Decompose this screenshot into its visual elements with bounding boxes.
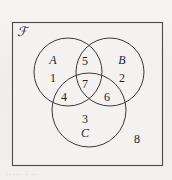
region-a-only-number: 1: [46, 72, 60, 84]
region-b-and-c-number: 6: [100, 91, 114, 103]
region-outside-number: 8: [130, 133, 144, 145]
set-label-c: C: [78, 127, 92, 139]
region-a-and-c-number: 4: [57, 91, 71, 103]
region-a-and-b-number: 5: [78, 55, 92, 67]
region-c-only-number: 3: [78, 113, 92, 125]
figure-page: ℱ A B C 1 2 3 4 5 6 7 8 ····· · ··: [0, 0, 172, 180]
set-label-a: A: [46, 54, 60, 66]
region-a-b-and-c-number: 7: [78, 78, 92, 90]
region-b-only-number: 2: [115, 72, 129, 84]
set-label-b: B: [115, 54, 129, 66]
figure-caption: ····· · ··: [6, 171, 96, 179]
universal-set-symbol: ℱ: [17, 25, 27, 38]
